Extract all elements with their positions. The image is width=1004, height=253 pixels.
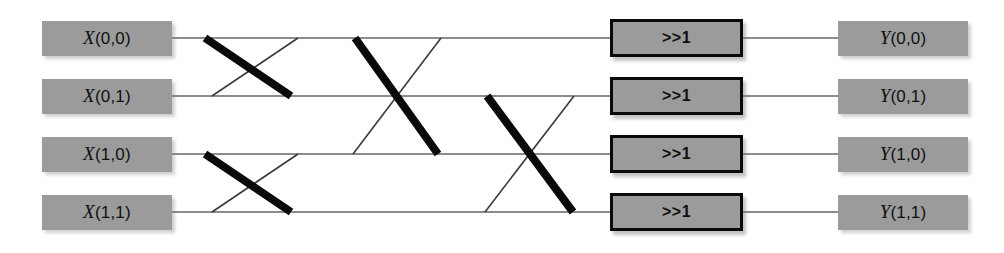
input-node-0: X(0,0) — [42, 21, 172, 56]
shift-right-block-3: >>1 — [610, 193, 743, 231]
input-node-1: X(0,1) — [42, 79, 172, 114]
node-label: Y(0,1) — [880, 85, 927, 107]
thin-crossing-lines — [212, 38, 574, 212]
shift-right-block-2: >>1 — [610, 135, 743, 173]
output-node-0: Y(0,0) — [838, 21, 968, 56]
node-label: Y(1,0) — [880, 143, 927, 165]
output-node-3: Y(1,1) — [838, 195, 968, 230]
shift-right-block-1: >>1 — [610, 77, 743, 115]
operator-label: >>1 — [662, 203, 691, 221]
output-node-1: Y(0,1) — [838, 79, 968, 114]
shift-right-block-0: >>1 — [610, 19, 743, 57]
input-node-3: X(1,1) — [42, 195, 172, 230]
node-label: X(1,1) — [83, 201, 131, 223]
node-label: X(1,0) — [83, 143, 131, 165]
node-label: Y(1,1) — [880, 201, 927, 223]
butterfly-network-diagram: X(0,0)X(0,1)X(1,0)X(1,1) >>1>>1>>1>>1 Y(… — [0, 0, 1004, 253]
operator-label: >>1 — [662, 145, 691, 163]
operator-label: >>1 — [662, 87, 691, 105]
cross-thick-stage1-row2-row3 — [205, 154, 291, 212]
operator-label: >>1 — [662, 29, 691, 47]
node-label: Y(0,0) — [880, 27, 927, 49]
input-node-2: X(1,0) — [42, 137, 172, 172]
node-label: X(0,1) — [83, 85, 131, 107]
node-label: X(0,0) — [83, 27, 131, 49]
output-node-2: Y(1,0) — [838, 137, 968, 172]
cross-thick-stage1-row0-row1 — [205, 38, 291, 96]
